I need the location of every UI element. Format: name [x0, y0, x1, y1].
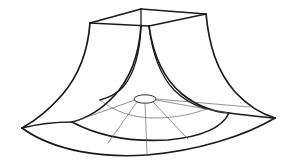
- wireframe-surface-figure: [0, 0, 289, 164]
- figure-canvas: [0, 0, 289, 164]
- throat-ellipse-icon: [134, 95, 156, 103]
